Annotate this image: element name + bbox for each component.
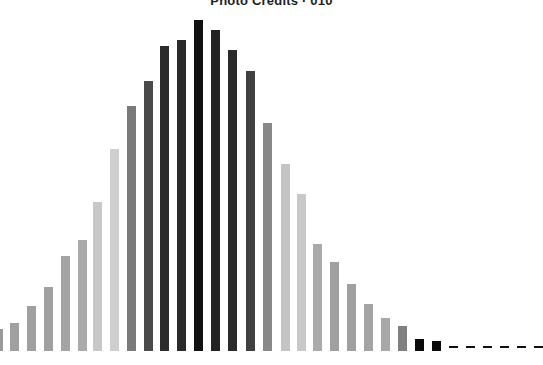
bar-8 [110,149,119,351]
bar-1 [0,329,3,351]
bar-26 [415,339,424,351]
bar-4 [44,287,53,351]
bar-27 [432,341,441,351]
bar-3 [27,306,36,351]
bar-30 [483,346,492,348]
bar-20 [313,244,322,351]
bar-32 [517,346,526,348]
bar-16 [246,71,255,351]
bar-28 [449,346,458,348]
bar-11 [160,46,169,351]
bar-29 [466,346,475,348]
bar-chart-plot-area [0,0,543,365]
bar-19 [297,194,306,351]
bar-17 [263,123,272,351]
bar-14 [211,30,220,351]
bar-13 [194,20,203,351]
bar-25 [398,326,407,351]
bar-18 [281,164,290,351]
bar-31 [500,346,509,348]
bar-23 [364,304,373,351]
bar-24 [381,318,390,351]
bar-21 [330,262,339,351]
bar-10 [144,81,153,351]
bar-2 [10,323,19,351]
bar-12 [177,40,186,351]
bar-22 [347,284,356,351]
bar-7 [93,202,102,351]
bar-33 [534,346,543,348]
bar-5 [61,256,70,351]
bar-15 [228,50,237,351]
bar-9 [127,106,136,351]
bar-6 [78,240,87,351]
